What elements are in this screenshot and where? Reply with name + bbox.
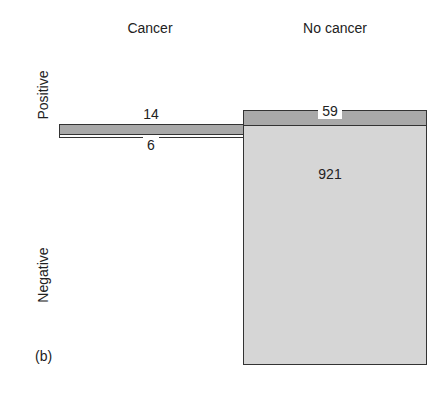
row-label-negative: Negative	[35, 235, 51, 315]
value-nocancer-negative: 921	[310, 166, 350, 182]
value-cancer-negative: 6	[143, 137, 159, 153]
column-label-cancer: Cancer	[110, 20, 190, 36]
column-label-no-cancer: No cancer	[285, 20, 385, 36]
row-label-positive: Positive	[35, 55, 51, 135]
cell-nocancer-negative	[243, 125, 427, 365]
value-nocancer-positive: 59	[318, 103, 342, 119]
value-cancer-positive: 14	[136, 106, 166, 122]
panel-label: (b)	[35, 348, 52, 364]
